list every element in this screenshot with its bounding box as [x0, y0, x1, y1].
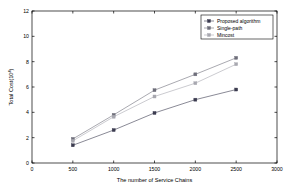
data-point	[235, 56, 238, 59]
x-axis-title-text: The number of Service Chains	[117, 177, 193, 183]
y-tick-label: 10	[23, 33, 29, 39]
y-tick-label: 6	[26, 84, 29, 90]
chart-legend: Proposed algorithmSingle-pathMincost	[201, 15, 273, 39]
series-3	[71, 63, 237, 143]
legend-swatch-marker	[208, 20, 211, 23]
x-tick-label: 1500	[149, 166, 161, 172]
x-tick-label: 1000	[108, 166, 120, 172]
y-tick-label: 0	[26, 160, 29, 166]
data-point	[194, 98, 197, 101]
data-point	[112, 115, 115, 118]
series-2	[71, 56, 237, 140]
x-tick-label: 2000	[190, 166, 202, 172]
chart-container: 050010001500200025003000 024681012 The n…	[0, 0, 295, 191]
data-point	[153, 111, 156, 114]
legend-label: Mincost	[217, 32, 235, 38]
x-tick-label: 0	[31, 166, 34, 172]
y-tick-label: 12	[23, 8, 29, 14]
data-point	[71, 139, 74, 142]
data-point	[112, 129, 115, 132]
legend-swatch-marker	[208, 27, 211, 30]
legend-label: Single-path	[217, 25, 243, 31]
y-axis-title-text: Total Cost(104)	[8, 68, 14, 105]
y-axis-title: Total Cost(104)	[8, 68, 14, 105]
y-axis-tick-labels: 024681012	[23, 8, 29, 166]
data-point	[235, 63, 238, 66]
data-point	[194, 82, 197, 85]
data-point	[235, 88, 238, 91]
data-point	[194, 73, 197, 76]
y-tick-label: 4	[26, 109, 29, 115]
line-chart: 050010001500200025003000 024681012 The n…	[0, 0, 295, 191]
data-series-group	[71, 56, 237, 146]
data-point	[153, 89, 156, 92]
y-tick-label: 8	[26, 59, 29, 65]
x-axis-tick-labels: 050010001500200025003000	[31, 166, 283, 172]
series-line	[73, 58, 236, 139]
x-tick-label: 3000	[271, 166, 283, 172]
legend-label: Proposed algorithm	[217, 18, 260, 24]
data-point	[153, 95, 156, 98]
x-tick-label: 500	[69, 166, 78, 172]
data-point	[71, 144, 74, 147]
y-tick-label: 2	[26, 135, 29, 141]
legend-swatch-marker	[208, 34, 211, 37]
x-axis-title: The number of Service Chains	[117, 177, 193, 183]
x-tick-label: 2500	[230, 166, 242, 172]
series-line	[73, 64, 236, 141]
